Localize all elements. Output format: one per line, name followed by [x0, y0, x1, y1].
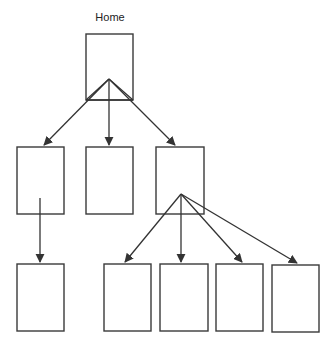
- node-level2-1: [17, 264, 64, 331]
- sitemap-diagram: [0, 0, 335, 352]
- node-level1-2: [86, 147, 133, 214]
- edge-home-to-level1-1: [44, 79, 109, 145]
- node-level2-2: [104, 264, 151, 331]
- node-level2-3: [160, 264, 208, 331]
- node-level2-5: [272, 265, 319, 332]
- node-level2-4: [216, 264, 263, 331]
- edge-level1-3-to-level2-4: [181, 194, 242, 262]
- edge-level1-3-to-level2-5: [181, 194, 297, 263]
- edge-home-to-level1-3: [109, 79, 175, 145]
